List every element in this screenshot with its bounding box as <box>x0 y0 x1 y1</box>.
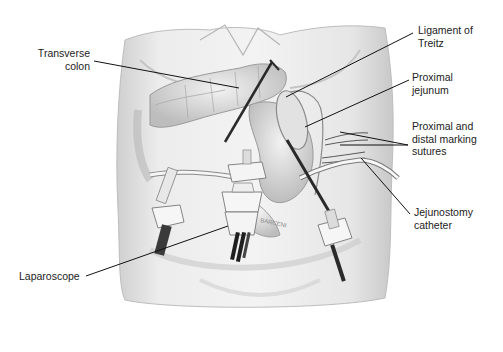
label-transverse-colon: Transverse colon <box>20 47 90 72</box>
label-ligament-of-treitz: Ligament of Treitz <box>418 24 473 49</box>
label-laparoscope: Laparoscope <box>19 270 80 283</box>
label-marking-sutures: Proximal and distal marking sutures <box>412 120 477 158</box>
label-jejunostomy-catheter: Jejunostomy catheter <box>414 206 473 231</box>
label-proximal-jejunum: Proximal jejunum <box>412 71 453 96</box>
